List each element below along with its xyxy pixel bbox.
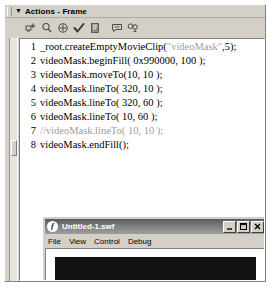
code-text: _root.createEmptyMovieClip("videoMask",5… — [40, 40, 236, 54]
code-token-plain: videoMask.lineTo( 320, 10 ); — [40, 83, 163, 94]
video-mask-rectangle — [55, 257, 256, 281]
menu-file[interactable]: File — [48, 237, 61, 246]
code-line[interactable]: 1_root.createEmptyMovieClip("videoMask",… — [20, 40, 264, 54]
code-text: videoMask.lineTo( 320, 10 ); — [40, 82, 163, 96]
panel-title: Actions - Frame — [25, 7, 87, 16]
code-token-comment: //videoMask.lineTo( 10, 10 ); — [40, 125, 163, 136]
find-icon[interactable] — [39, 21, 54, 36]
flash-player-window-inner: ƒ Untitled-1.swf — [43, 217, 265, 281]
flash-player-stage[interactable] — [45, 248, 265, 281]
code-token-plain: _root.createEmptyMovieClip( — [40, 41, 167, 52]
maximize-button[interactable] — [237, 221, 250, 233]
flash-player-menubar: FileViewControlDebug — [45, 235, 265, 248]
flash-player-titlebar[interactable]: ƒ Untitled-1.swf — [45, 219, 265, 234]
minimize-button[interactable] — [223, 221, 236, 233]
code-line[interactable]: 3videoMask.moveTo(10, 10 ); — [20, 68, 264, 82]
actions-panel-titlebar[interactable]: ▼ Actions - Frame — [5, 5, 265, 18]
line-number: 2 — [20, 54, 40, 68]
code-line[interactable]: 2videoMask.beginFill( 0x990000, 100 ); — [20, 54, 264, 68]
menu-view[interactable]: View — [69, 237, 86, 246]
code-line[interactable]: 6videoMask.lineTo( 10, 60 ); — [20, 110, 264, 124]
line-number: 3 — [20, 68, 40, 82]
code-line[interactable]: 4videoMask.lineTo( 320, 10 ); — [20, 82, 264, 96]
drag-grip-icon[interactable] — [7, 7, 12, 16]
debug-options-icon[interactable] — [125, 21, 140, 36]
line-number: 7 — [20, 124, 40, 138]
code-token-plain: videoMask.beginFill( 0x990000, 100 ); — [40, 55, 205, 66]
add-statement-icon[interactable] — [23, 21, 38, 36]
menu-control[interactable]: Control — [94, 237, 120, 246]
code-text: videoMask.moveTo(10, 10 ); — [40, 68, 162, 82]
auto-format-icon[interactable] — [87, 21, 102, 36]
menu-debug[interactable]: Debug — [128, 237, 152, 246]
line-number: 5 — [20, 96, 40, 110]
code-token-plain: videoMask.lineTo( 10, 60 ); — [40, 111, 157, 122]
actions-panel: ▼ Actions - Frame — [4, 4, 266, 282]
line-number: 8 — [20, 138, 40, 152]
code-text: videoMask.lineTo( 10, 60 ); — [40, 110, 157, 124]
line-number: 6 — [20, 110, 40, 124]
code-text: videoMask.endFill(); — [40, 138, 129, 152]
flash-player-title: Untitled-1.swf — [62, 222, 222, 231]
code-token-string: "videoMask" — [167, 41, 222, 52]
code-token-plain: videoMask.moveTo(10, 10 ); — [40, 69, 162, 80]
scrollbar-thumb[interactable] — [11, 140, 17, 156]
flash-player-icon: ƒ — [47, 221, 58, 232]
actions-toolbar — [5, 18, 265, 38]
code-text: videoMask.lineTo( 320, 60 ); — [40, 96, 163, 110]
code-token-plain: ,5); — [222, 41, 236, 52]
check-syntax-icon[interactable] — [71, 21, 86, 36]
code-token-plain: videoMask.lineTo( 320, 60 ); — [40, 97, 163, 108]
code-text: //videoMask.lineTo( 10, 10 ); — [40, 124, 163, 138]
chevron-down-icon[interactable]: ▼ — [15, 8, 22, 15]
window-controls — [222, 221, 264, 233]
code-line[interactable]: 7//videoMask.lineTo( 10, 10 ); — [20, 124, 264, 138]
code-vertical-scrollbar[interactable] — [9, 38, 18, 281]
line-number: 4 — [20, 82, 40, 96]
line-number: 1 — [20, 40, 40, 54]
insert-target-path-icon[interactable] — [55, 21, 70, 36]
code-text: videoMask.beginFill( 0x990000, 100 ); — [40, 54, 205, 68]
code-line[interactable]: 8videoMask.endFill(); — [20, 138, 264, 152]
close-button[interactable] — [251, 221, 264, 233]
flash-player-window[interactable]: ƒ Untitled-1.swf — [42, 216, 265, 281]
script-editor[interactable]: 1_root.createEmptyMovieClip("videoMask",… — [19, 38, 265, 281]
code-token-plain: videoMask.endFill(); — [40, 139, 129, 150]
show-code-hint-icon[interactable] — [109, 21, 124, 36]
code-line[interactable]: 5videoMask.lineTo( 320, 60 ); — [20, 96, 264, 110]
code-line-list: 1_root.createEmptyMovieClip("videoMask",… — [20, 40, 264, 152]
